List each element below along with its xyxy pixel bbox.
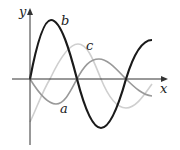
graph-figure: y x b c a <box>0 0 180 150</box>
curve-a-label: a <box>60 101 68 116</box>
curve-c-label: c <box>86 38 94 53</box>
y-axis-label: y <box>18 4 27 19</box>
curve-b-label: b <box>61 13 69 28</box>
curve-c <box>30 44 152 122</box>
curve-b <box>30 20 152 128</box>
x-axis-label: x <box>160 81 168 96</box>
y-axis-arrow-icon <box>27 8 33 15</box>
